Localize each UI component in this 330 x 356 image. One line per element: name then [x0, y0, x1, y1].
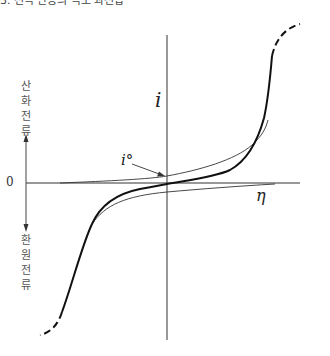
exchange-current-arrow	[132, 164, 162, 175]
anodic-partial-current-curve	[60, 120, 268, 183]
current-axis-label: i	[155, 88, 161, 112]
exchange-current-label: i°	[121, 151, 133, 169]
overpotential-axis-label: η	[256, 186, 266, 205]
net-current-lower-dashed	[40, 312, 62, 335]
oxidation-current-label: 산화전류	[19, 79, 33, 139]
exchange-current-arrow-head	[157, 172, 165, 177]
net-current-upper-dashed	[272, 24, 300, 56]
current-overpotential-diagram	[0, 0, 330, 356]
reduction-current-label: 환원전류	[19, 233, 33, 293]
cathodic-partial-current-curve	[92, 184, 275, 224]
origin-zero-label: 0	[6, 175, 14, 189]
reduction-arrow-head	[24, 224, 29, 232]
